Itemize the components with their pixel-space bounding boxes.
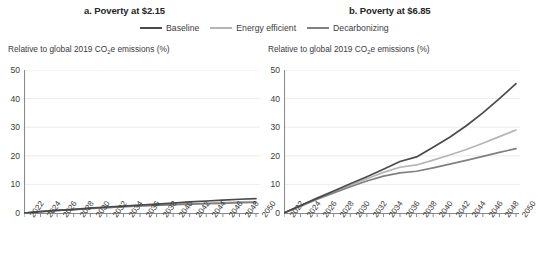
y-tick-label: 50 <box>264 65 280 75</box>
y-tick-label: 40 <box>4 94 20 104</box>
chart-legend: BaselineEnergy efficientDecarbonizing <box>140 24 389 33</box>
legend-line-icon <box>210 27 232 29</box>
legend-line-icon <box>140 27 162 29</box>
panel-a-y-axis-ticks: 01020304050 <box>4 70 20 213</box>
panel-a: Relative to global 2019 CO2e emissions (… <box>0 44 259 264</box>
y-tick-label: 0 <box>4 208 20 218</box>
y-tick-label: 30 <box>264 122 280 132</box>
panel-b: Relative to global 2019 CO2e emissions (… <box>260 44 519 264</box>
panel-a-axis-note: Relative to global 2019 CO2e emissions (… <box>8 44 170 54</box>
panel-b-x-axis-labels: 2022202420262028203020322034203620382040… <box>284 214 516 264</box>
panel-a-title: a. Poverty at $2.15 <box>84 5 165 16</box>
y-tick-label: 20 <box>4 151 20 161</box>
panel-a-x-axis-labels: 2022202420262028203020322034203620382040… <box>24 214 256 264</box>
panel-a-plot-area <box>24 70 260 223</box>
plot-svg <box>24 70 260 219</box>
y-tick-label: 20 <box>264 151 280 161</box>
plot-svg <box>284 70 520 219</box>
panel-b-y-axis-ticks: 01020304050 <box>264 70 280 213</box>
legend-item-energy-efficient: Energy efficient <box>210 24 296 33</box>
y-tick-label: 40 <box>264 94 280 104</box>
legend-label: Energy efficient <box>236 24 296 33</box>
panel-b-plot: 01020304050 2022202420262028203020322034… <box>260 56 519 221</box>
y-tick-label: 0 <box>264 208 280 218</box>
legend-item-decarbonizing: Decarbonizing <box>307 24 389 33</box>
panel-b-plot-area <box>284 70 520 223</box>
x-tick-label: 2050 <box>520 199 538 219</box>
legend-label: Decarbonizing <box>333 24 389 33</box>
legend-label: Baseline <box>166 24 199 33</box>
legend-item-baseline: Baseline <box>140 24 199 33</box>
panel-b-title: b. Poverty at $6.85 <box>349 5 431 16</box>
y-tick-label: 30 <box>4 122 20 132</box>
series-line-baseline <box>284 84 516 213</box>
y-tick-label: 50 <box>4 65 20 75</box>
y-tick-label: 10 <box>264 179 280 189</box>
legend-line-icon <box>307 27 329 29</box>
y-tick-label: 10 <box>4 179 20 189</box>
panel-a-plot: 01020304050 2022202420262028203020322034… <box>0 56 259 221</box>
panel-b-axis-note: Relative to global 2019 CO2e emissions (… <box>268 44 430 54</box>
